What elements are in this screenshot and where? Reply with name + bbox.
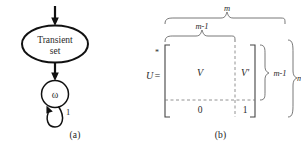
matrix-block-bottom-left: 0 (198, 105, 203, 115)
node-transient-set: Transient set (22, 26, 88, 63)
right-brace-outer-label: m (297, 73, 301, 83)
edge-transient-to-omega (51, 63, 59, 82)
transient-set-label-line2: set (50, 46, 61, 56)
top-brace-inner-label: m-1 (195, 21, 208, 31)
panel-b-caption: (b) (140, 130, 301, 140)
right-brace-outer (288, 40, 297, 117)
matrix-superscript-star: * (155, 48, 159, 57)
matrix-right-bracket (250, 45, 255, 117)
top-brace-outer-label: m (224, 3, 230, 13)
panel-a-caption: (a) (0, 130, 150, 140)
top-brace-outer (165, 12, 285, 24)
matrix-equals-sign: = (154, 70, 161, 81)
figure-container: Transient set ω 1 (a) (0, 0, 301, 158)
matrix-lhs-symbol: U (146, 70, 154, 81)
self-loop-label: 1 (66, 107, 70, 117)
transient-set-label-line1: Transient (37, 35, 73, 45)
node-omega: ω (42, 81, 69, 108)
omega-label: ω (52, 89, 59, 100)
entry-arrow (51, 6, 59, 26)
matrix-block-top-right: V' (241, 67, 250, 78)
edge-omega-self-loop (46, 106, 62, 128)
matrix-block-bottom-right: 1 (243, 105, 248, 115)
right-brace-inner (260, 45, 269, 100)
top-brace-inner (165, 30, 235, 42)
matrix-block-top-left: V (197, 67, 205, 78)
matrix-left-bracket (165, 45, 170, 117)
panel-b-matrix: m m-1 U * = V V' 0 1 (140, 0, 301, 158)
panel-a-diagram: Transient set ω 1 (a) (0, 0, 150, 158)
right-brace-inner-label: m-1 (273, 68, 286, 78)
